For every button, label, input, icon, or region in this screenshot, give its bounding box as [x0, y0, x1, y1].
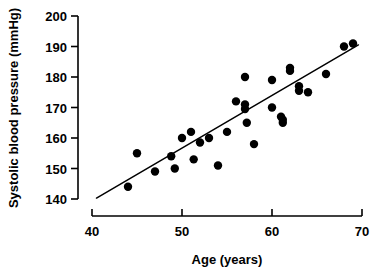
- data-point: [250, 140, 258, 148]
- data-point: [178, 134, 186, 142]
- data-point: [241, 105, 249, 113]
- scatter-plot-figure: 200 190 180 170 160 150 140 Systolic blo…: [0, 0, 382, 277]
- y-tick-label-170: 170: [45, 101, 67, 116]
- data-point: [268, 76, 276, 84]
- x-tick-labels: 40 50 60 70: [85, 224, 369, 239]
- data-point: [133, 149, 141, 157]
- data-point: [322, 70, 330, 78]
- data-point: [190, 155, 198, 163]
- y-tick-labels: 200 190 180 170 160 150 140: [45, 9, 67, 207]
- data-point: [340, 42, 348, 50]
- data-point: [304, 88, 312, 96]
- data-point: [349, 39, 357, 47]
- x-axis-group: 40 50 60 70 Age (years): [85, 209, 369, 267]
- data-points-layer: [124, 39, 357, 191]
- x-axis-title: Age (years): [192, 252, 263, 267]
- x-tick-label-40: 40: [85, 224, 99, 239]
- data-point: [279, 119, 287, 127]
- y-axis-group: 200 190 180 170 160 150 140 Systolic blo…: [6, 8, 78, 208]
- y-tick-label-140: 140: [45, 192, 67, 207]
- data-point: [124, 183, 132, 191]
- x-tick-label-60: 60: [265, 224, 279, 239]
- data-point: [214, 161, 222, 169]
- data-point: [241, 73, 249, 81]
- data-point: [171, 164, 179, 172]
- data-point: [232, 97, 240, 105]
- y-tick-label-150: 150: [45, 162, 67, 177]
- data-point: [151, 167, 159, 175]
- regression-line-group: [97, 45, 359, 198]
- x-axis-ticks: [92, 209, 362, 216]
- y-tick-label-160: 160: [45, 131, 67, 146]
- x-tick-label-70: 70: [355, 224, 369, 239]
- data-point: [167, 152, 175, 160]
- y-axis-ticks: [71, 16, 78, 199]
- regression-line: [97, 45, 359, 198]
- data-point: [205, 134, 213, 142]
- plot-canvas: 200 190 180 170 160 150 140 Systolic blo…: [0, 0, 382, 277]
- data-point: [187, 128, 195, 136]
- y-tick-label-190: 190: [45, 40, 67, 55]
- data-point: [286, 67, 294, 75]
- data-point: [243, 119, 251, 127]
- data-point: [223, 128, 231, 136]
- y-tick-label-200: 200: [45, 9, 67, 24]
- x-tick-label-50: 50: [175, 224, 189, 239]
- data-point: [295, 87, 303, 95]
- y-axis-title: Systolic blood pressure (mmHg): [6, 8, 21, 208]
- y-tick-label-180: 180: [45, 70, 67, 85]
- data-point: [268, 103, 276, 111]
- data-point: [196, 138, 204, 146]
